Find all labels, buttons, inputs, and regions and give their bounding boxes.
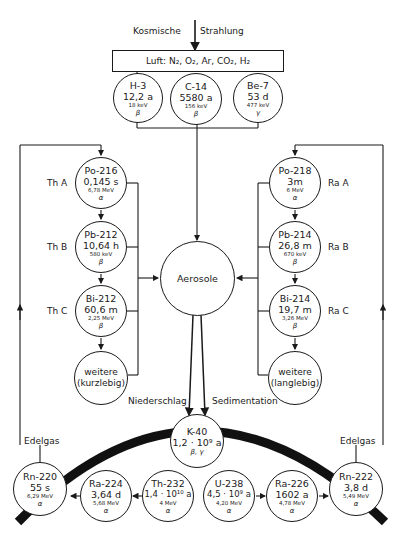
- decay-type: β: [99, 322, 103, 330]
- decay-type: β: [136, 109, 140, 117]
- label-noble-gas-right: Edelgas: [340, 437, 375, 446]
- energy: 18 keV: [129, 102, 148, 109]
- decay-type: α: [99, 194, 104, 202]
- node-text-line2: (kurzlebig): [77, 378, 125, 389]
- half-life: 60,6 m: [84, 304, 117, 315]
- energy: 6 MeV: [286, 187, 303, 194]
- node-aerosols: Aerosole: [160, 241, 235, 316]
- label-th-a: Th A: [47, 179, 67, 188]
- node-ra224: Ra-224 3,64 d 5,68 MeV α: [80, 470, 132, 522]
- nuclide-name: C-14: [185, 81, 207, 92]
- energy: 5,68 MeV: [93, 500, 119, 507]
- node-pb214: Pb-214 26,8 m 670 keV β: [269, 221, 321, 273]
- half-life: 0,145 s: [83, 176, 118, 187]
- energy: 5,49 MeV: [343, 493, 369, 500]
- node-bi214: Bi-214 19,7 m 3,26 MeV β: [269, 285, 321, 337]
- cosmic-label-left: Kosmische: [133, 27, 181, 36]
- decay-type: α: [166, 507, 171, 515]
- half-life: 26,8 m: [278, 240, 311, 251]
- decay-type: β: [99, 258, 103, 266]
- nuclide-name: Po-216: [85, 165, 118, 176]
- nuclide-name: Ra-226: [275, 478, 309, 489]
- node-bi212: Bi-212 60,6 m 2,25 MeV β: [75, 285, 127, 337]
- decay-type: α: [227, 507, 232, 515]
- half-life: 3m: [287, 176, 302, 187]
- decay-type: α: [104, 507, 109, 515]
- nuclide-name: Po-218: [279, 165, 312, 176]
- energy: 670 keV: [284, 251, 306, 258]
- node-text-line2: (langlebig): [271, 378, 319, 389]
- decay-type: β: [293, 322, 297, 330]
- decay-type: α: [38, 500, 43, 508]
- half-life: 5580 a: [179, 92, 212, 103]
- node-th232: Th-232 1,4 · 10¹⁰ a 4 MeV α: [142, 470, 194, 522]
- air-composition-box: Luft: N₂, O₂, Ar, CO₂, H₂: [112, 50, 284, 72]
- energy: 3,26 MeV: [282, 315, 308, 322]
- half-life: 19,7 m: [278, 304, 311, 315]
- label-th-c: Th C: [47, 307, 67, 316]
- label-precipitation: Niederschlag: [128, 397, 187, 406]
- nuclide-name: Rn-222: [339, 471, 373, 482]
- aerosols-label: Aerosole: [177, 273, 218, 284]
- half-life: 12,2 a: [123, 91, 153, 102]
- node-further-short-lived: weitere (kurzlebig): [74, 351, 128, 405]
- decay-type: β, γ: [190, 448, 203, 456]
- label-sedimentation: Sedimentation: [212, 397, 278, 406]
- nuclide-name: H-3: [130, 80, 147, 91]
- node-po218: Po-218 3m 6 MeV α: [269, 157, 321, 209]
- node-be7: Be-7 53 d 477 keV γ: [233, 73, 283, 123]
- label-ra-a: Ra A: [328, 179, 349, 188]
- node-rn220: Rn-220 55 s 6,29 MeV α: [13, 462, 67, 516]
- energy: 6,29 MeV: [27, 493, 53, 500]
- energy: 477 keV: [247, 102, 269, 109]
- nuclide-name: K-40: [187, 426, 208, 437]
- decay-type: α: [293, 194, 298, 202]
- energy: 6,78 MeV: [88, 187, 114, 194]
- node-po216: Po-216 0,145 s 6,78 MeV α: [75, 157, 127, 209]
- label-ra-c: Ra C: [328, 307, 349, 316]
- node-text-line1: weitere: [84, 367, 118, 378]
- energy: 4,20 MeV: [216, 500, 242, 507]
- nuclide-name: Rn-220: [23, 471, 57, 482]
- nuclide-name: Bi-212: [86, 293, 117, 304]
- half-life: 4,5 · 10⁹ a: [207, 489, 251, 500]
- nuclide-name: Pb-214: [278, 229, 311, 240]
- nuclide-name: Ra-224: [89, 478, 123, 489]
- half-life: 3,64 d: [91, 489, 121, 500]
- decay-type: α: [354, 500, 359, 508]
- nuclide-name: Bi-214: [280, 293, 311, 304]
- cosmic-label-right: Strahlung: [200, 27, 244, 36]
- half-life: 1602 a: [275, 489, 308, 500]
- half-life: 53 d: [247, 91, 268, 102]
- energy: 580 keV: [90, 251, 112, 258]
- nuclide-name: U-238: [215, 478, 244, 489]
- node-ra226: Ra-226 1602 a 4,78 MeV α: [266, 470, 318, 522]
- half-life: 10,64 h: [83, 240, 119, 251]
- decay-type: β: [293, 258, 297, 266]
- decay-type: γ: [256, 109, 260, 117]
- decay-type: α: [290, 507, 295, 515]
- energy: 4,78 MeV: [279, 500, 305, 507]
- node-rn222: Rn-222 3,8 d 5,49 MeV α: [329, 462, 383, 516]
- energy: 156 keV: [185, 103, 207, 110]
- node-k40: K-40 1,2 · 10⁹ a β, γ: [170, 414, 224, 468]
- energy: 4 MeV: [159, 500, 176, 507]
- air-composition-text: Luft: N₂, O₂, Ar, CO₂, H₂: [146, 56, 250, 66]
- half-life: 55 s: [30, 482, 50, 493]
- nuclide-name: Th-232: [151, 478, 184, 489]
- nuclide-name: Be-7: [247, 80, 269, 91]
- label-th-b: Th B: [47, 243, 67, 252]
- node-h3: H-3 12,2 a 18 keV β: [113, 73, 163, 123]
- label-ra-b: Ra B: [328, 243, 349, 252]
- label-noble-gas-left: Edelgas: [24, 437, 59, 446]
- half-life: 3,8 d: [344, 482, 368, 493]
- energy: 2,25 MeV: [88, 315, 114, 322]
- node-c14: C-14 5580 a 156 keV β: [170, 73, 222, 125]
- node-pb212: Pb-212 10,64 h 580 keV β: [75, 221, 127, 273]
- nuclide-name: Pb-212: [84, 229, 117, 240]
- node-text-line1: weitere: [278, 367, 312, 378]
- decay-type: β: [194, 110, 198, 118]
- node-u238: U-238 4,5 · 10⁹ a 4,20 MeV α: [203, 470, 255, 522]
- half-life: 1,2 · 10⁹ a: [173, 437, 222, 448]
- half-life: 1,4 · 10¹⁰ a: [144, 489, 191, 500]
